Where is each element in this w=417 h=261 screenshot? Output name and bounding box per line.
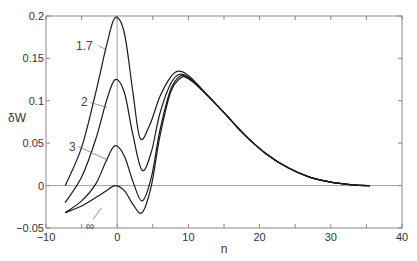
- curve-∞: [65, 77, 370, 214]
- tick-labels: −10010203040−0.0500.050.10.150.2: [16, 10, 408, 243]
- curve-3: [65, 75, 370, 212]
- plot-frame: [46, 16, 402, 228]
- x-tick-label: 20: [253, 231, 265, 243]
- y-tick-label: 0.15: [23, 52, 44, 64]
- axis-ticks: [46, 16, 402, 228]
- y-axis-label: δW: [8, 111, 27, 125]
- x-tick-label: 40: [396, 231, 408, 243]
- curve-annotations: 1.723∞: [69, 39, 108, 234]
- curve-1.7: [65, 17, 370, 185]
- curve-label: ∞: [86, 219, 95, 233]
- reference-lines: [46, 16, 402, 228]
- curve-label: 1.7: [76, 39, 93, 53]
- x-tick-label: 0: [114, 231, 120, 243]
- x-axis-label: n: [221, 242, 228, 256]
- curve-2: [65, 74, 370, 203]
- leader-line: [93, 208, 101, 220]
- chart: −10010203040−0.0500.050.10.150.2 1.723∞ …: [0, 0, 417, 261]
- y-tick-label: 0.1: [29, 95, 44, 107]
- x-tick-label: 10: [182, 231, 194, 243]
- y-tick-label: 0.2: [29, 10, 44, 22]
- series-curves: [65, 17, 370, 213]
- curve-label: 2: [81, 95, 88, 109]
- y-tick-label: −0.05: [16, 222, 44, 234]
- curve-label: 3: [69, 140, 76, 154]
- leader-line: [98, 46, 106, 50]
- x-tick-label: 30: [325, 231, 337, 243]
- plot-area-border: [46, 16, 402, 228]
- y-tick-label: 0: [38, 180, 44, 192]
- y-tick-label: 0.05: [23, 137, 44, 149]
